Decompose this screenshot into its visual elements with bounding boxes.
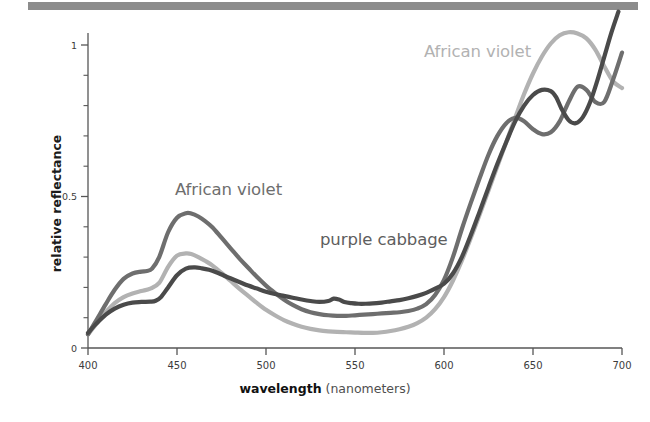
y-tick-label: 1: [71, 40, 77, 51]
x-tick-label: 450: [167, 360, 186, 371]
x-tick-label: 500: [256, 360, 275, 371]
x-tick-label: 650: [523, 360, 542, 371]
x-tick-label: 700: [612, 360, 631, 371]
x-tick-label: 550: [345, 360, 364, 371]
series-label-purple-cabbage: purple cabbage: [320, 230, 448, 249]
y-tick-label: 0.5: [62, 191, 77, 202]
y-tick-label: 0: [71, 343, 77, 354]
x-axis-title: wavelength (nanometers): [0, 381, 650, 396]
plot-canvas: 00.51400450500550600650700: [0, 0, 650, 422]
series-line: [88, 53, 622, 335]
x-axis-title-units: (nanometers): [322, 381, 411, 396]
series-label-african-violet-left: African violet: [175, 180, 282, 199]
x-axis-title-bold: wavelength: [239, 381, 321, 396]
series-label-african-violet-right: African violet: [424, 42, 531, 61]
y-axis-title: relative reflectance: [49, 104, 64, 304]
spectral-reflectance-figure: 00.51400450500550600650700 relative refl…: [0, 0, 650, 422]
x-tick-label: 600: [434, 360, 453, 371]
x-tick-label: 400: [78, 360, 97, 371]
